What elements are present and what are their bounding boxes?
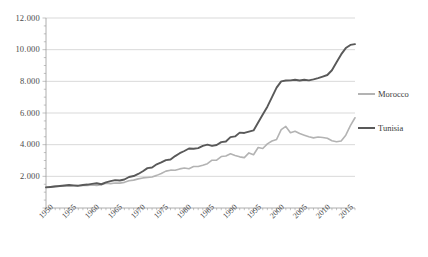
y-axis-tick-label: 2.000 xyxy=(0,171,40,181)
data-series xyxy=(46,44,355,187)
y-axis-tick-label: 12.000 xyxy=(0,13,40,23)
legend-swatch-morocco xyxy=(358,93,375,95)
legend-swatch-tunisia xyxy=(358,127,375,130)
gridlines xyxy=(46,18,355,176)
legend-label-tunisia: Tunisia xyxy=(378,123,403,133)
y-axis-ticks xyxy=(43,18,47,208)
y-axis-tick-label: 8.000 xyxy=(0,76,40,86)
y-axis-tick-label: 6.000 xyxy=(0,108,40,118)
legend-item-tunisia: Tunisia xyxy=(358,122,409,134)
y-axis-tick-label: 10.000 xyxy=(0,44,40,54)
chart-legend: Morocco Tunisia xyxy=(358,88,409,156)
y-axis-tick-label: 4.000 xyxy=(0,139,40,149)
legend-label-morocco: Morocco xyxy=(378,89,409,99)
legend-item-morocco: Morocco xyxy=(358,88,409,100)
chart-container: 2.0004.0006.0008.00010.00012.000 1950195… xyxy=(0,0,428,257)
